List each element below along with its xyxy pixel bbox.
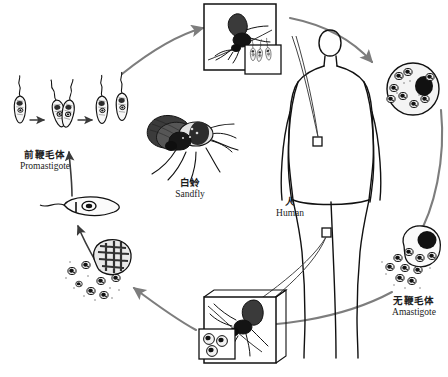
human-figure — [281, 30, 381, 358]
inset-sandfly-bite-top — [204, 4, 281, 74]
label-sandfly-cn: 白蛉 — [152, 178, 228, 188]
macrophage-right-burst — [381, 226, 440, 289]
label-human: 人 Human — [258, 197, 322, 219]
macrophage-left-burst — [65, 240, 131, 301]
label-human-cn: 人 — [258, 197, 322, 207]
single-promastigote — [40, 197, 119, 216]
label-amastigote-en: Amastigote — [380, 307, 448, 317]
infected-macrophage — [387, 63, 439, 115]
life-cycle-diagram: 前鞭毛体 Promastigote 白蛉 Sandfly 人 Human 无鞭毛… — [0, 0, 448, 377]
label-sandfly: 白蛉 Sandfly — [152, 178, 228, 200]
label-sandfly-en: Sandfly — [152, 189, 228, 199]
label-promastigote-en: Promastigote — [2, 161, 88, 171]
label-promastigote-cn: 前鞭毛体 — [2, 150, 88, 160]
cycle-arrows — [122, 18, 442, 330]
bite-site-markers — [313, 137, 331, 237]
bite-site-connectors — [214, 36, 326, 337]
label-promastigote: 前鞭毛体 Promastigote — [2, 150, 88, 172]
sandfly-detail — [147, 115, 238, 182]
label-amastigote: 无鞭毛体 Amastigote — [380, 296, 448, 318]
inset-sandfly-bite-bottom — [199, 290, 286, 363]
label-amastigote-cn: 无鞭毛体 — [380, 296, 448, 306]
stage-arrows — [30, 120, 96, 262]
label-human-en: Human — [258, 208, 322, 218]
